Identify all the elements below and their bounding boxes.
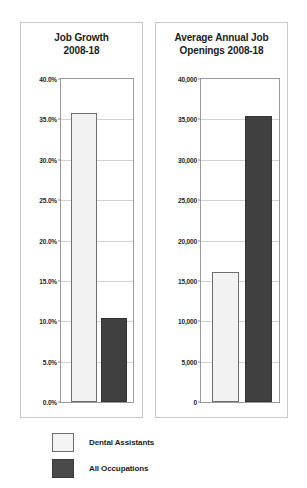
chart-title-line1: Job Growth [21,32,142,45]
y-axis-tick-label: 10,000 [178,318,197,325]
y-axis-tick-mark [58,200,61,201]
y-axis-tick-mark [198,159,201,160]
chart-title-job-openings: Average Annual Job Openings 2008-18 [156,32,287,57]
bar-dental-assistants [212,272,239,402]
legend-item-all-occupations: All Occupations [52,458,232,479]
y-axis-tick-mark [198,280,201,281]
legend-label-all-occupations: All Occupations [89,464,148,473]
bar-all-occupations [101,318,127,402]
chart-legend: Dental Assistants All Occupations [52,432,232,484]
y-axis-tick-label: 25,000 [178,197,197,204]
y-axis-tick-label: 40,000 [178,76,197,83]
figure-container: Job Growth 2008-18 0.0%5.0%10.0%15.0%20.… [0,0,307,488]
y-axis-tick-label: 20,000 [178,237,197,244]
y-axis-tick-label: 15.0% [39,277,57,284]
y-axis-tick-mark [198,321,201,322]
y-axis-tick-label: 0 [194,399,197,406]
y-axis-tick-mark [198,402,201,403]
y-axis-tick-label: 0.0% [43,399,57,406]
y-axis-tick-mark [58,280,61,281]
y-axis-tick-label: 40.0% [39,76,57,83]
y-axis-tick-mark [198,119,201,120]
y-axis-tick-label: 5.0% [43,358,57,365]
y-axis-tick-mark [198,361,201,362]
y-axis-tick-mark [58,402,61,403]
y-axis-tick-label: 30,000 [178,156,197,163]
y-axis-tick-mark [58,321,61,322]
plot-area-job-growth: 0.0%5.0%10.0%15.0%20.0%25.0%30.0%35.0%40… [60,78,134,403]
y-axis-tick-label: 20.0% [39,237,57,244]
y-axis-tick-mark [58,119,61,120]
y-axis-tick-mark [58,240,61,241]
legend-label-dental-assistants: Dental Assistants [89,438,154,447]
y-axis-tick-label: 25.0% [39,197,57,204]
y-axis-tick-mark [198,240,201,241]
chart-panel-job-openings: Average Annual Job Openings 2008-18 05,0… [155,22,288,418]
y-axis-tick-label: 5,000 [181,358,197,365]
chart-title-line2: 2008-18 [21,45,142,58]
y-axis-tick-mark [198,200,201,201]
plot-area-job-openings: 05,00010,00015,00020,00025,00030,00035,0… [200,78,280,403]
y-axis-tick-label: 15,000 [178,277,197,284]
y-axis-tick-mark [58,159,61,160]
chart-title-line1: Average Annual Job [156,32,287,45]
y-axis-tick-label: 30.0% [39,156,57,163]
y-axis-tick-label: 35.0% [39,116,57,123]
y-axis-tick-mark [58,361,61,362]
chart-title-line2: Openings 2008-18 [156,45,287,58]
y-axis-tick-mark [58,79,61,80]
chart-panel-job-growth: Job Growth 2008-18 0.0%5.0%10.0%15.0%20.… [20,22,143,418]
chart-title-job-growth: Job Growth 2008-18 [21,32,142,57]
y-axis-tick-label: 10.0% [39,318,57,325]
legend-item-dental-assistants: Dental Assistants [52,432,232,453]
bar-dental-assistants [71,113,97,402]
y-axis-tick-mark [198,79,201,80]
bar-all-occupations [245,116,272,402]
y-axis-tick-label: 35,000 [178,116,197,123]
legend-swatch-icon-dental-assistants [52,433,74,452]
legend-swatch-icon-all-occupations [52,459,74,478]
